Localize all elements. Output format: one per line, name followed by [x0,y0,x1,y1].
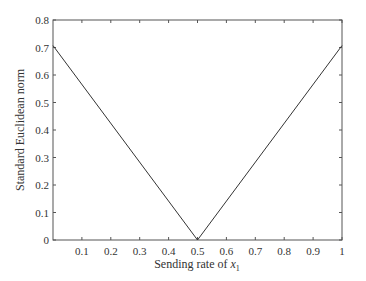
x-tick-label: 0.5 [191,245,205,257]
x-tick-label: 0.9 [306,245,320,257]
x-tick-label: 0.3 [133,245,147,257]
y-tick-label: 0.3 [35,152,49,164]
y-tick-labels: 00.10.20.30.40.50.60.70.8 [35,14,49,246]
x-tick-label: 0.1 [75,245,89,257]
y-tick-label: 0.4 [35,124,49,136]
chart: 0.10.20.30.40.50.60.70.80.91 00.10.20.30… [0,0,366,281]
x-tick-label: 0.6 [220,245,234,257]
y-tick-label: 0.8 [35,14,49,26]
y-tick-label: 0 [44,234,50,246]
tick-marks [53,20,342,240]
y-tick-label: 0.6 [35,69,49,81]
series-line [53,46,342,240]
y-tick-label: 0.1 [35,207,49,219]
y-tick-label: 0.2 [35,179,49,191]
x-tick-label: 0.7 [248,245,262,257]
y-tick-label: 0.7 [35,42,49,54]
x-tick-labels: 0.10.20.30.40.50.60.70.80.91 [75,245,345,257]
plot-axes [53,20,342,240]
x-tick-label: 0.4 [162,245,176,257]
x-tick-label: 1 [339,245,345,257]
x-tick-label: 0.2 [104,245,118,257]
y-tick-label: 0.5 [35,97,49,109]
data-series [53,46,342,240]
x-tick-label: 0.8 [277,245,291,257]
x-axis-label: Sending rate of x1 [154,257,240,273]
y-axis-label: Standard Euclidean norm [13,68,27,191]
